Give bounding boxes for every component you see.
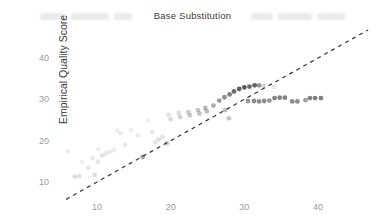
data-point — [277, 95, 282, 100]
data-point — [140, 154, 145, 159]
data-point — [223, 108, 228, 113]
data-point — [204, 109, 209, 114]
data-point — [96, 147, 101, 152]
data-point — [77, 174, 82, 179]
x-tick-label: 30 — [239, 202, 249, 212]
data-point — [252, 83, 257, 88]
data-point — [90, 156, 95, 161]
y-tick-label: 30 — [39, 94, 49, 104]
data-point — [128, 128, 133, 133]
data-point — [187, 113, 192, 118]
x-tick-label: 10 — [92, 202, 102, 212]
data-point — [257, 83, 262, 88]
data-point — [232, 89, 237, 94]
quality-score-chart: Base Substitution Empirical Quality Scor… — [0, 0, 385, 224]
data-point — [65, 149, 70, 154]
data-point — [319, 96, 324, 101]
data-point — [247, 84, 252, 89]
data-point — [178, 115, 183, 120]
data-point — [271, 85, 276, 90]
y-axis-title: Empirical Quality Score — [57, 15, 69, 124]
identity-dashed-line — [66, 30, 368, 199]
data-point — [222, 95, 227, 100]
data-point — [136, 133, 141, 138]
x-tick-label: 40 — [313, 202, 323, 212]
data-point — [267, 98, 272, 103]
data-point — [160, 135, 165, 140]
data-point — [295, 99, 300, 104]
data-point — [272, 96, 277, 101]
data-point — [211, 103, 216, 108]
data-point — [252, 99, 257, 104]
data-point — [150, 130, 155, 135]
data-point — [217, 98, 222, 103]
data-point — [237, 87, 242, 92]
data-point — [303, 98, 308, 103]
data-point — [176, 111, 181, 116]
data-point — [86, 165, 91, 170]
data-point — [290, 99, 295, 104]
data-point — [226, 116, 231, 121]
data-point — [262, 99, 267, 104]
x-tick-label: 20 — [166, 202, 176, 212]
data-point — [92, 173, 97, 178]
data-point — [123, 142, 128, 147]
data-point — [308, 96, 313, 101]
data-point — [165, 141, 170, 146]
data-point — [313, 96, 318, 101]
y-tick-label: 20 — [39, 136, 49, 146]
data-point — [261, 84, 266, 89]
data-point — [282, 95, 287, 100]
data-point — [246, 99, 251, 104]
data-point — [168, 117, 173, 122]
data-point — [72, 174, 77, 179]
y-tick-label: 40 — [39, 53, 49, 63]
data-point — [95, 159, 100, 164]
data-point — [112, 148, 117, 153]
data-point — [227, 92, 232, 97]
data-point — [166, 112, 171, 117]
data-point — [146, 118, 151, 123]
data-point — [80, 160, 85, 165]
y-tick-label: 10 — [39, 177, 49, 187]
data-point — [197, 111, 202, 116]
data-point — [257, 99, 262, 104]
data-point — [242, 85, 247, 90]
data-point — [118, 131, 123, 136]
data-point — [107, 149, 112, 154]
